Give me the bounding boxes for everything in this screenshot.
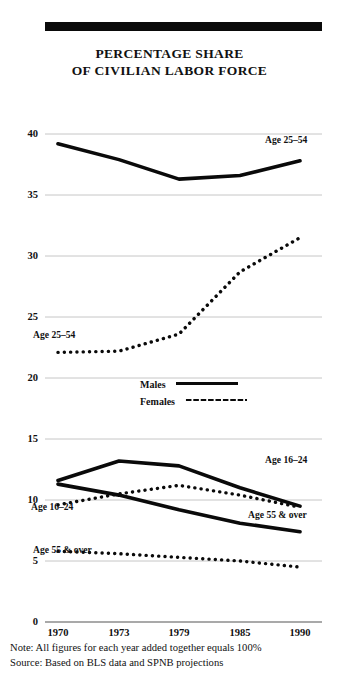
series-line-4 [58, 484, 300, 532]
x-tick-label-1985: 1985 [218, 627, 262, 638]
chart-figure: PERCENTAGE SHARE OF CIVILIAN LABOR FORCE… [0, 0, 339, 691]
series-line-1 [58, 238, 300, 353]
annotation-females-55-over: Age 55 & over [33, 545, 92, 555]
footnotes: Note: All figures for each year added to… [10, 641, 330, 670]
series-lines [58, 144, 300, 567]
legend-swatch-solid-icon [176, 382, 238, 385]
legend-label-males: Males [140, 379, 166, 390]
annotation-males-16-24: Age 16–24 [265, 455, 307, 465]
legend-item-females: Females [140, 391, 247, 409]
annotation-males-55-over: Age 55 & over [248, 510, 307, 520]
legend-swatch-dotted-icon [185, 398, 247, 402]
legend-item-males: Males [140, 374, 238, 392]
y-tick-label-0: 0 [12, 617, 38, 627]
y-tick-label-30: 30 [12, 251, 38, 261]
annotation-females-16-24: Age 16–24 [31, 502, 73, 512]
legend-label-females: Females [140, 396, 175, 407]
series-line-0 [58, 144, 300, 179]
x-tick-label-1979: 1979 [157, 627, 201, 638]
footnote-source: Source: Based on BLS data and SPNB proje… [10, 656, 330, 671]
x-tick-label-1973: 1973 [97, 627, 141, 638]
y-tick-label-20: 20 [12, 373, 38, 383]
plot-area [0, 0, 339, 691]
annotation-males-25-54: Age 25–54 [265, 135, 307, 145]
x-tick-label-1970: 1970 [36, 627, 80, 638]
y-tick-label-25: 25 [12, 312, 38, 322]
y-tick-label-5: 5 [12, 556, 38, 566]
footnote-note: Note: All figures for each year added to… [10, 641, 330, 656]
y-tick-label-35: 35 [12, 190, 38, 200]
series-line-5 [58, 551, 300, 567]
x-tick-label-1990: 1990 [278, 627, 322, 638]
y-tick-label-40: 40 [12, 129, 38, 139]
annotation-females-25-54: Age 25–54 [33, 330, 75, 340]
y-tick-label-15: 15 [12, 434, 38, 444]
